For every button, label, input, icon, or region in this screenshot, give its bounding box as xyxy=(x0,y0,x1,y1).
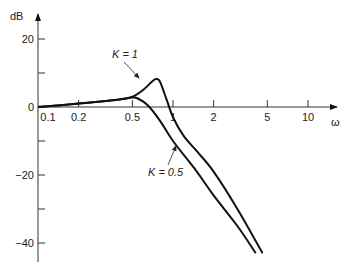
x-axis-label: ω xyxy=(331,116,340,128)
x-tick-label: 0.5 xyxy=(125,111,140,123)
y-tick-label: 0 xyxy=(28,101,34,113)
annotation-k1-arrow xyxy=(124,62,139,78)
y-axis-label: dB xyxy=(10,10,23,22)
x-tick-label: 10 xyxy=(302,111,314,123)
bode-magnitude-chart: 200−20−40 0.10.20.512510 dB ω K = 1 K = … xyxy=(0,0,350,274)
y-tick-label: −40 xyxy=(15,237,34,249)
annotation-k05: K = 0.5 xyxy=(148,166,184,178)
annotation-k1: K = 1 xyxy=(112,48,138,60)
y-ticks: 200−20−40 xyxy=(15,33,45,249)
y-tick-label: 20 xyxy=(22,33,34,45)
annotation-k05-arrow xyxy=(168,146,176,165)
x-tick-label: 0.2 xyxy=(71,111,86,123)
x-tick-label: 2 xyxy=(211,111,217,123)
x-tick-label: 5 xyxy=(264,111,270,123)
x-tick-label: 0.1 xyxy=(40,111,55,123)
y-tick-label: −20 xyxy=(15,169,34,181)
